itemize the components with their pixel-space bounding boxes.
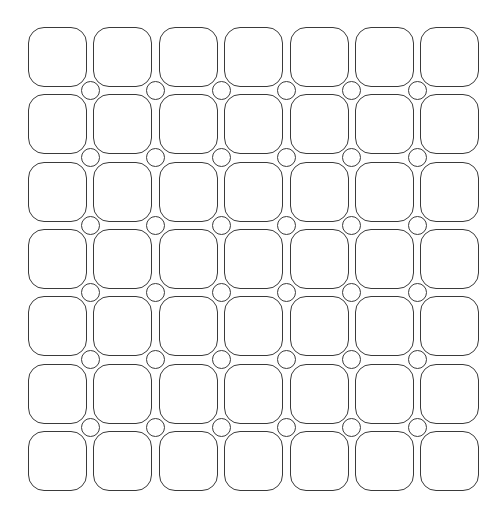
connector-circle [277,350,296,369]
grid-pattern [0,0,502,514]
grid-tile [159,364,218,424]
connector-circle [81,148,100,167]
connector-circle [408,418,427,437]
connector-circle [342,283,361,302]
grid-tile [355,94,414,154]
grid-tile [420,94,479,154]
connector-circle [146,216,165,235]
grid-tile [420,162,479,222]
connector-circle [342,418,361,437]
connector-circle [81,81,100,100]
grid-tile [290,431,349,491]
grid-tile [159,162,218,222]
grid-tile [290,27,349,87]
grid-tile [224,431,283,491]
grid-tile [290,94,349,154]
grid-tile [224,94,283,154]
connector-circle [212,81,231,100]
connector-circle [408,148,427,167]
grid-tile [355,229,414,289]
grid-tile [28,229,87,289]
connector-circle [146,283,165,302]
connector-circle [146,148,165,167]
grid-tile [224,296,283,356]
connector-circle [277,81,296,100]
grid-tile [224,162,283,222]
grid-tile [93,296,152,356]
connector-circle [408,216,427,235]
grid-tile [28,431,87,491]
grid-tile [420,27,479,87]
connector-circle [146,418,165,437]
grid-tile [420,364,479,424]
connector-circle [81,350,100,369]
connector-circle [277,216,296,235]
grid-tile [93,94,152,154]
grid-tile [28,296,87,356]
grid-tile [355,364,414,424]
grid-tile [290,229,349,289]
connector-circle [408,283,427,302]
connector-circle [408,81,427,100]
connector-circle [342,148,361,167]
grid-tile [93,27,152,87]
connector-circle [146,81,165,100]
connector-circle [212,148,231,167]
grid-tile [93,364,152,424]
grid-tile [28,94,87,154]
connector-circle [277,283,296,302]
connector-circle [408,350,427,369]
grid-tile [355,162,414,222]
grid-tile [420,229,479,289]
grid-tile [290,162,349,222]
connector-circle [81,283,100,302]
grid-tile [28,162,87,222]
grid-tile [93,229,152,289]
connector-circle [212,350,231,369]
grid-tile [28,364,87,424]
grid-tile [420,296,479,356]
grid-tile [159,94,218,154]
connector-circle [277,148,296,167]
connector-circle [212,418,231,437]
grid-tile [355,431,414,491]
connector-circle [212,216,231,235]
grid-tile [159,27,218,87]
grid-tile [420,431,479,491]
grid-tile [224,229,283,289]
grid-tile [355,296,414,356]
grid-tile [28,27,87,87]
grid-tile [290,364,349,424]
connector-circle [342,81,361,100]
grid-tile [290,296,349,356]
connector-circle [342,350,361,369]
connector-circle [212,283,231,302]
connector-circle [342,216,361,235]
grid-tile [355,27,414,87]
grid-tile [93,162,152,222]
grid-tile [93,431,152,491]
connector-circle [81,216,100,235]
connector-circle [146,350,165,369]
grid-tile [159,229,218,289]
grid-tile [159,431,218,491]
grid-tile [159,296,218,356]
connector-circle [277,418,296,437]
grid-tile [224,27,283,87]
connector-circle [81,418,100,437]
grid-tile [224,364,283,424]
